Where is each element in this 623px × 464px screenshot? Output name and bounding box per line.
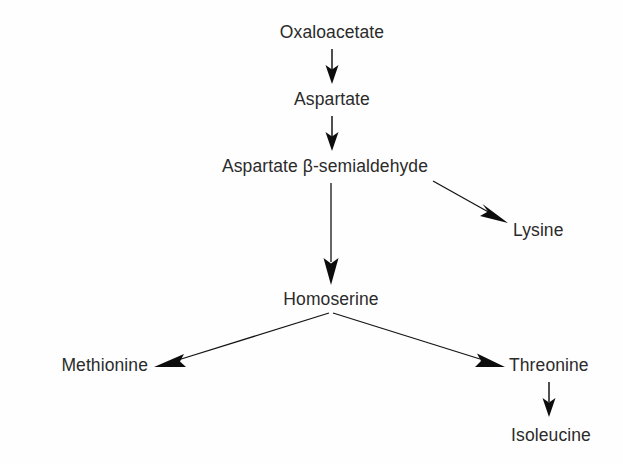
arrowhead-down-icon	[324, 258, 339, 285]
arrowhead-diagonal-down-right-icon	[475, 354, 505, 368]
node-homoserine: Homoserine	[283, 289, 378, 309]
edge-homoserine-to-threonine	[333, 313, 505, 367]
arrowhead-diagonal-down-left-icon	[154, 354, 186, 367]
node-methionine: Methionine	[61, 355, 148, 375]
node-aspartate-beta-semialdehyde: Aspartate β-semialdehyde	[222, 156, 428, 176]
node-aspartate: Aspartate	[294, 89, 370, 109]
edge-aspartate-to-aspartate-beta-semialdehyde	[326, 116, 339, 151]
node-isoleucine: Isoleucine	[511, 425, 591, 445]
node-lysine: Lysine	[513, 220, 564, 240]
edge-homoserine-to-methionine	[154, 313, 329, 367]
node-oxaloacetate: Oxaloacetate	[280, 22, 384, 42]
node-threonine: Threonine	[509, 355, 589, 375]
edge-aspartate-beta-semialdehyde-to-lysine	[433, 181, 508, 223]
edge-aspartate-beta-semialdehyde-to-homoserine	[324, 183, 339, 285]
pathway-diagram: Oxaloacetate Aspartate Aspartate β-semia…	[0, 0, 623, 464]
arrowhead-diagonal-down-right-icon	[480, 204, 508, 223]
edge-shaft	[178, 313, 329, 360]
edge-oxaloacetate-to-aspartate	[326, 49, 339, 84]
edge-shaft	[433, 181, 492, 214]
edge-shaft	[333, 313, 480, 359]
pathway-svg-canvas: Oxaloacetate Aspartate Aspartate β-semia…	[0, 0, 623, 464]
edge-threonine-to-isoleucine	[543, 382, 556, 417]
